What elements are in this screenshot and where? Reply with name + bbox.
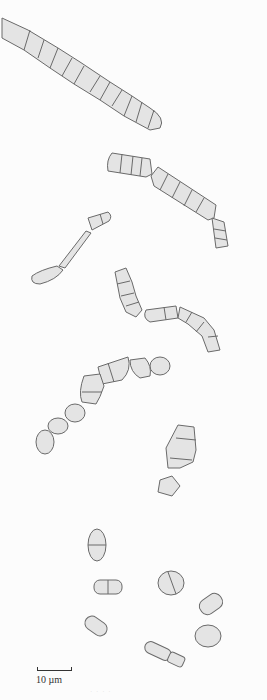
scale-bar — [37, 667, 72, 671]
filament-6 — [158, 425, 196, 496]
filament-1 — [2, 18, 162, 130]
filament-3 — [32, 212, 111, 284]
scale-bar-label: 10 µm — [36, 674, 62, 685]
filament-2 — [108, 153, 229, 248]
filaments-drawing — [0, 0, 267, 700]
filament-5 — [36, 357, 170, 454]
faint-caption: · · · · — [90, 688, 112, 696]
illustration-canvas: 10 µm · · · · — [0, 0, 267, 700]
isolated-cells — [82, 529, 225, 668]
filament-4 — [115, 268, 220, 352]
